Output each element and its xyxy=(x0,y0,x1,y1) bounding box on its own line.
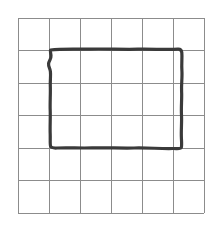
grid-drawing-canvas xyxy=(0,0,221,226)
figure-container xyxy=(0,0,221,226)
